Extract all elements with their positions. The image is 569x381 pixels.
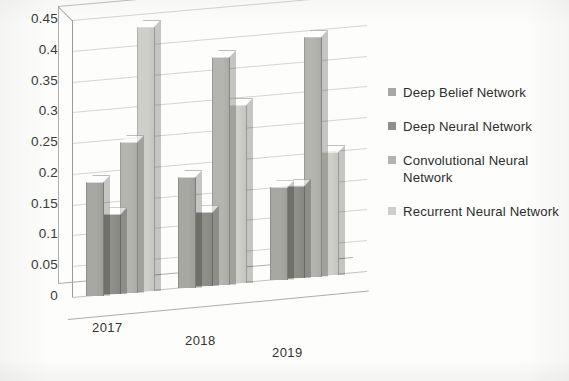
bar-front-face [178,177,196,288]
bar-side-face [212,205,219,286]
legend-swatch-icon [388,156,396,164]
back-wall-top-edge [58,0,353,7]
bar [270,187,287,279]
bar [86,182,103,296]
bar-side-face [321,30,328,277]
legend-item-label: Recurrent Neural Network [403,203,559,220]
bar-side-face [246,98,253,284]
bar-side-face [195,170,202,288]
chart-page: 00.050.10.150.20.250.30.350.40.452017201… [0,0,569,381]
bar-side-face [103,175,110,296]
y-axis-tick-label: 0.15 [2,196,58,211]
bar-side-face [287,180,294,279]
bar [178,177,195,288]
legend-item-label: Deep Belief Network [403,84,526,101]
y-axis-tick-label: 0.35 [2,73,58,88]
y-axis-tick-label: 0.4 [2,42,58,57]
y-axis-tick-label: 0.25 [2,134,58,149]
bar-side-face [137,135,144,293]
plot-area: 00.050.10.150.20.250.30.350.40.452017201… [0,0,390,360]
y-axis-tick-label: 0.1 [2,226,58,241]
gridline [72,0,367,21]
legend-swatch-icon [388,207,396,215]
chart-legend: Deep Belief NetworkDeep Neural NetworkCo… [388,84,566,237]
legend-item[interactable]: Deep Belief Network [388,84,566,101]
bar-side-face [338,145,345,275]
legend-item-label: Deep Neural Network [403,118,532,135]
x-axis-category-label: 2017 [92,320,123,335]
legend-item[interactable]: Convolutional Neural Network [388,152,566,186]
x-axis-category-label: 2019 [272,345,303,360]
y-axis-tick-label: 0.3 [2,103,58,118]
legend-item[interactable]: Recurrent Neural Network [388,203,566,220]
y-axis-tick-label: 0.45 [2,11,58,26]
bar-side-face [304,179,311,278]
y-axis-tick-label: 0 [2,288,58,303]
bar-side-face [154,20,161,292]
bar-front-face [270,187,288,279]
legend-item[interactable]: Deep Neural Network [388,118,566,135]
left-wall-back [58,6,59,283]
legend-swatch-icon [388,88,396,96]
legend-swatch-icon [388,122,396,130]
y-axis-tick-label: 0.05 [2,257,58,272]
x-axis-category-label: 2018 [185,333,216,348]
bar-side-face [120,207,127,294]
y-axis-tick-label: 0.2 [2,165,58,180]
wall-depth-connector [58,6,73,21]
bar-front-face [86,182,104,296]
bar-side-face [229,50,236,285]
floor-front-edge [68,291,369,320]
left-wall [72,20,73,297]
legend-item-label: Convolutional Neural Network [403,152,566,186]
